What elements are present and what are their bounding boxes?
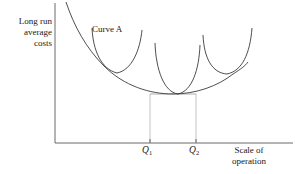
srac-curve-2 — [155, 43, 200, 94]
srac-curve-3 — [203, 28, 252, 74]
lrac-envelope-figure: Long run average costs Curve A Q1 Q2 Sca… — [0, 0, 295, 174]
x-tick-label-q2: Q2 — [189, 145, 199, 155]
curve-a-annotation: Curve A — [92, 24, 146, 35]
q2-symbol: Q — [189, 145, 196, 155]
x-axis-label: Scale of operation — [218, 145, 280, 167]
x-tick-label-q1: Q1 — [142, 145, 152, 155]
y-axis-label: Long run average costs — [2, 16, 52, 49]
q2-subscript: 2 — [196, 149, 199, 156]
lrac-envelope-curve — [66, 2, 248, 94]
q1-symbol: Q — [142, 145, 149, 155]
q1-subscript: 1 — [149, 149, 152, 156]
